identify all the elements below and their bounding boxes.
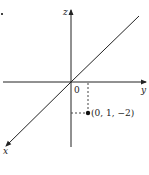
x-axis-label: x [3, 146, 8, 156]
artifact-dot [1, 13, 3, 15]
x-axis [6, 82, 71, 146]
y-axis-label: y [140, 85, 147, 95]
z-axis-label: z [62, 7, 68, 17]
diagonal-line-upper [71, 16, 139, 82]
origin-label: 0 [74, 85, 80, 95]
coordinate-diagram: z y x 0 (0, 1, −2) [0, 0, 149, 175]
point-label: (0, 1, −2) [91, 108, 134, 118]
point-marker [86, 111, 90, 115]
